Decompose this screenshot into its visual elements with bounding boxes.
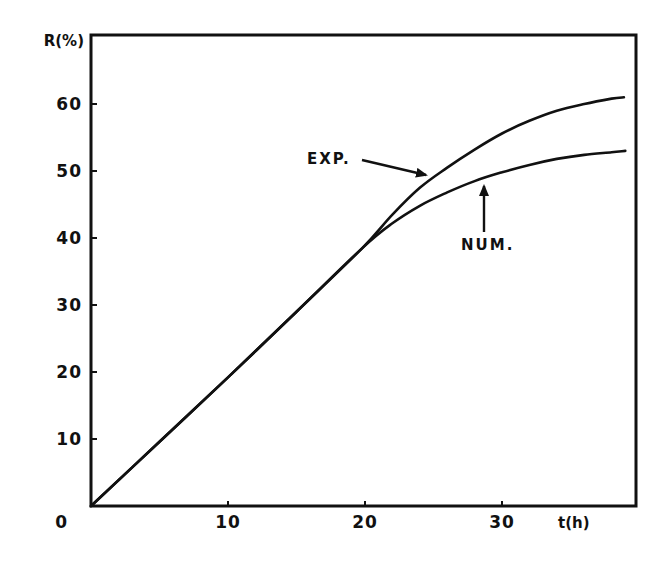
y-tick-label: 60 (56, 94, 82, 114)
y-axis-title: R(%) (44, 32, 84, 50)
y-tick-label: 20 (56, 362, 82, 382)
annotation-exp-arrow (362, 160, 426, 175)
x-tick-label: 30 (489, 512, 515, 532)
chart: R(%) 0102030405060 102030 t(h) EXP. NUM. (0, 0, 672, 563)
x-tick-label: 10 (215, 512, 241, 532)
series-num-curve (91, 151, 625, 506)
series-exp-curve (91, 97, 624, 506)
y-tick-label: 50 (56, 161, 82, 181)
plot-frame (91, 35, 636, 506)
x-axis-title: t(h) (558, 514, 590, 532)
annotation-exp-label: EXP. (307, 150, 351, 168)
y-tick-label: 30 (56, 295, 82, 315)
y-tick-label: 0 (55, 512, 68, 532)
annotation-num-label: NUM. (461, 236, 514, 254)
y-tick-label: 10 (56, 429, 82, 449)
y-tick-label: 40 (56, 228, 82, 248)
x-tick-label: 20 (352, 512, 378, 532)
